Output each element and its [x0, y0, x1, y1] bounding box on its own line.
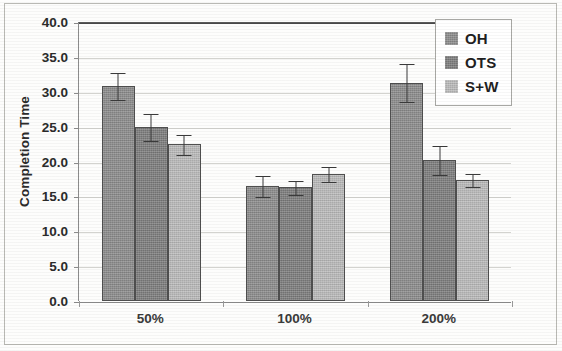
legend-swatch-icon [445, 56, 458, 69]
y-axis-tick-label: 20.0 [22, 154, 68, 169]
y-axis-tick-label: 35.0 [22, 49, 68, 64]
bar-texture [313, 175, 344, 300]
x-axis-tick-mark [223, 301, 224, 307]
bar-chart-figure: Completion Time 0.05.010.015.020.025.030… [0, 0, 562, 351]
error-bar-cap-top [177, 135, 192, 136]
bar-texture [247, 187, 278, 300]
x-axis-tick-mark [368, 301, 369, 307]
legend-swatch-icon [445, 32, 458, 45]
x-axis-tick-label: 50% [137, 311, 164, 326]
bar-texture [136, 128, 167, 300]
chart-legend: OHOTSS+W [435, 19, 512, 106]
error-bar-cap-top [399, 64, 414, 65]
legend-swatch-icon [445, 80, 458, 93]
legend-swatch-texture [445, 32, 458, 45]
bar-texture [103, 87, 134, 300]
bar [456, 180, 489, 301]
error-bar-cap-top [465, 174, 480, 175]
legend-label: OH [465, 30, 488, 47]
y-axis-tick-label: 30.0 [22, 84, 68, 99]
bar [279, 187, 312, 301]
legend-swatch-texture [445, 56, 458, 69]
legend-swatch-texture [445, 80, 458, 93]
bar-texture [280, 188, 311, 300]
y-axis-tick-label: 5.0 [22, 259, 68, 274]
x-axis-tick-mark [512, 301, 513, 307]
x-axis-tick-mark [79, 301, 80, 307]
x-axis-tick-label: 200% [422, 311, 457, 326]
error-bar-cap-top [432, 146, 447, 147]
legend-item: S+W [445, 74, 499, 98]
bar [168, 144, 201, 301]
bar-texture [457, 181, 488, 300]
y-axis-tick-labels: 0.05.010.015.020.025.030.035.040.0 [14, 0, 68, 351]
bar-texture [169, 145, 200, 300]
bar [102, 86, 135, 301]
legend-label: S+W [465, 78, 499, 95]
bar-texture [391, 84, 422, 300]
y-axis-tick-label: 15.0 [22, 189, 68, 204]
y-axis-tick-label: 10.0 [22, 224, 68, 239]
y-axis-tick-label: 40.0 [22, 15, 68, 30]
bar [390, 83, 423, 301]
error-bar-cap-top [144, 114, 159, 115]
error-bar-cap-top [255, 176, 270, 177]
legend-label: OTS [465, 54, 496, 71]
bar [312, 174, 345, 301]
gridline [79, 302, 511, 303]
error-bar-cap-top [288, 181, 303, 182]
bar [246, 186, 279, 301]
bar [135, 127, 168, 301]
x-axis-tick-label: 100% [277, 311, 312, 326]
error-bar-cap-top [111, 73, 126, 74]
y-axis-tick-label: 25.0 [22, 119, 68, 134]
legend-item: OTS [445, 50, 499, 74]
legend-item: OH [445, 26, 499, 50]
y-axis-tick-label: 0.0 [22, 294, 68, 309]
bar [423, 160, 456, 301]
error-bar-cap-top [321, 167, 336, 168]
bar-texture [424, 161, 455, 300]
